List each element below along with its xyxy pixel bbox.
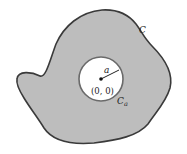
- inner-circle-label-subscript: a: [124, 100, 128, 108]
- center-label: (0, 0): [91, 86, 114, 96]
- outer-curve-label: C: [139, 25, 146, 35]
- radius-label: a: [104, 65, 109, 75]
- domain-diagram: a (0, 0) C Ca: [0, 0, 187, 154]
- center-point: [99, 77, 103, 81]
